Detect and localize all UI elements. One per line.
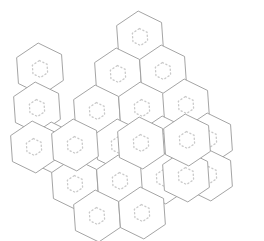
hexagon-lattice-svg [0, 0, 264, 241]
hexagon-group [11, 11, 233, 241]
hexagon-lattice-canvas [0, 0, 264, 241]
